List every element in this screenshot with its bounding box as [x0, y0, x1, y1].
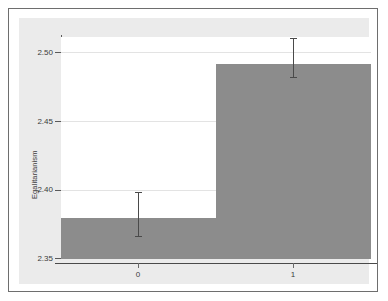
x-axis-line [55, 263, 377, 264]
error-bar-cap-upper-1 [290, 38, 297, 39]
x-tick-mark-0 [138, 263, 139, 268]
error-bar-cap-lower-1 [290, 77, 297, 78]
figure-frame: Egalitarianism 2.50 2.45 2.40 2.35 [8, 8, 378, 292]
gridline-250 [61, 52, 371, 53]
error-bar-line-1 [293, 39, 294, 78]
y-tick-label-245: 2.45 [23, 117, 53, 126]
error-bar-line-0 [138, 193, 139, 237]
x-tick-mark-1 [293, 263, 294, 268]
bar-category-1[interactable] [216, 64, 371, 259]
y-tick-label-235: 2.35 [23, 254, 53, 263]
error-bar-cap-lower-0 [135, 236, 142, 237]
plot-area [61, 37, 371, 259]
y-tick-label-240: 2.40 [23, 185, 53, 194]
x-tick-label-1: 1 [273, 270, 313, 280]
y-tick-label-250: 2.50 [23, 48, 53, 57]
error-bar-cap-upper-0 [135, 192, 142, 193]
x-tick-label-0: 0 [118, 270, 158, 280]
